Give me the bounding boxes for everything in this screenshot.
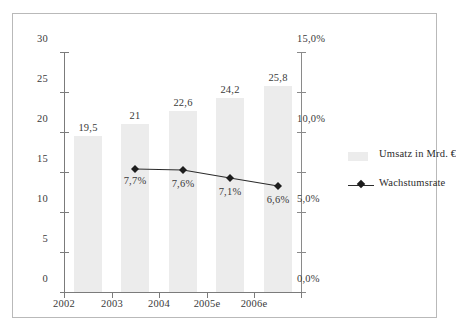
category-tick — [301, 292, 302, 298]
left-axis-label: 30 — [37, 33, 48, 44]
right-axis-label: 10,0% — [297, 113, 325, 124]
marker-2004[interactable] — [179, 166, 187, 174]
left-axis-label: 25 — [37, 73, 48, 84]
left-axis-label: 15 — [37, 153, 48, 164]
marker-2003[interactable] — [131, 165, 139, 173]
left-axis-label: 10 — [37, 193, 48, 204]
left-axis-label: 0 — [43, 273, 48, 284]
growth-rate-label: 7,6% — [159, 178, 207, 189]
legend-label: Umsatz in Mrd. € — [379, 148, 456, 159]
growth-rate-label: 7,7% — [111, 175, 159, 186]
marker-2005e[interactable] — [226, 174, 234, 182]
left-axis-label: 5 — [43, 233, 48, 244]
right-axis-label: 15,0% — [297, 33, 325, 44]
category-label-2004: 2004 — [135, 298, 183, 309]
growth-rate-line — [64, 52, 301, 292]
category-label-2005e: 2005e — [183, 298, 231, 309]
growth-rate-label: 6,6% — [254, 194, 302, 205]
plot-area: 19,5 21 22,6 24,2 25,8 7,7% 7,6% 7,1% 6,… — [64, 52, 301, 292]
legend-label: Wachstumsrate — [379, 177, 445, 188]
marker-2006e[interactable] — [274, 182, 282, 190]
legend-swatch-icon — [348, 152, 368, 161]
right-percentage-axis — [301, 52, 302, 292]
legend-diamond-icon — [357, 180, 365, 188]
chart-frame: 30 25 20 15 10 5 0 15,0% 10,0% 5,0% 0,0% — [12, 13, 437, 318]
category-label-2002: 2002 — [40, 298, 88, 309]
left-axis-label: 20 — [37, 113, 48, 124]
category-label-2006e: 2006e — [230, 298, 278, 309]
growth-rate-label: 7,1% — [206, 186, 254, 197]
category-tick-group — [64, 292, 302, 293]
category-label-2003: 2003 — [88, 298, 136, 309]
